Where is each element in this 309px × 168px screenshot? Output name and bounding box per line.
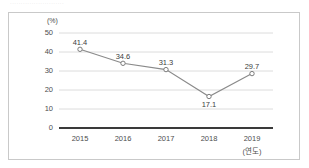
series-markers — [78, 47, 254, 99]
point-label-2015: 41.4 — [63, 38, 97, 47]
y-tick-10: 10 — [31, 104, 53, 113]
chart-frame: (%) 50 40 30 20 10 0 2015 2016 2017 2018… — [8, 12, 300, 160]
y-tick-50: 50 — [31, 28, 53, 37]
y-tick-30: 30 — [31, 66, 53, 75]
point-label-2019: 29.7 — [235, 62, 269, 71]
x-tick-2018: 2018 — [189, 134, 229, 143]
x-tick-2016: 2016 — [103, 134, 143, 143]
caption-strip: ························· — [10, 0, 190, 7]
point-label-2016: 34.6 — [106, 52, 140, 61]
x-axis-unit-label: (연도) — [232, 145, 272, 156]
line-chart-plot-area: (%) 50 40 30 20 10 0 2015 2016 2017 2018… — [9, 13, 301, 161]
y-tick-0: 0 — [31, 123, 53, 132]
y-tick-40: 40 — [31, 47, 53, 56]
y-tick-20: 20 — [31, 85, 53, 94]
x-tick-2015: 2015 — [60, 134, 100, 143]
x-tick-2019: 2019 — [232, 134, 272, 143]
y-axis-unit-label: (%) — [47, 17, 58, 24]
point-label-2018: 17.1 — [192, 100, 226, 109]
point-label-2017: 31.3 — [149, 58, 183, 67]
x-tick-2017: 2017 — [146, 134, 186, 143]
